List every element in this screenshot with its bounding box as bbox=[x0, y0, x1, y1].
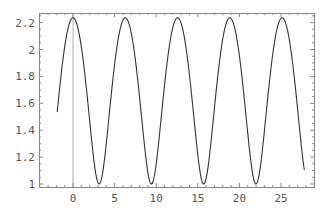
sine-curve bbox=[57, 18, 304, 184]
y-tick-label: 1.8 bbox=[15, 70, 35, 83]
x-axis-ticks: 0510152025 bbox=[40, 13, 306, 205]
x-tick-label: 10 bbox=[150, 192, 163, 205]
data-curve bbox=[57, 18, 304, 184]
x-tick-label: 25 bbox=[274, 192, 287, 205]
y-tick-label: 1.4 bbox=[15, 124, 35, 137]
y-tick-label: 2.2 bbox=[15, 17, 35, 30]
y-tick-label: 1.2 bbox=[15, 151, 35, 164]
x-tick-label: 20 bbox=[233, 192, 246, 205]
y-tick-label: 1.6 bbox=[15, 97, 35, 110]
y-axis-ticks: 11.21.41.61.822.2 bbox=[15, 16, 314, 191]
y-tick-label: 1 bbox=[28, 178, 35, 191]
y-tick-label: 2 bbox=[28, 44, 35, 57]
chart: 0510152025 11.21.41.61.822.2 bbox=[0, 0, 330, 211]
x-tick-label: 0 bbox=[70, 192, 77, 205]
x-tick-label: 15 bbox=[191, 192, 204, 205]
plot-frame bbox=[40, 14, 315, 188]
frame-rect bbox=[40, 14, 315, 188]
x-tick-label: 5 bbox=[111, 192, 118, 205]
